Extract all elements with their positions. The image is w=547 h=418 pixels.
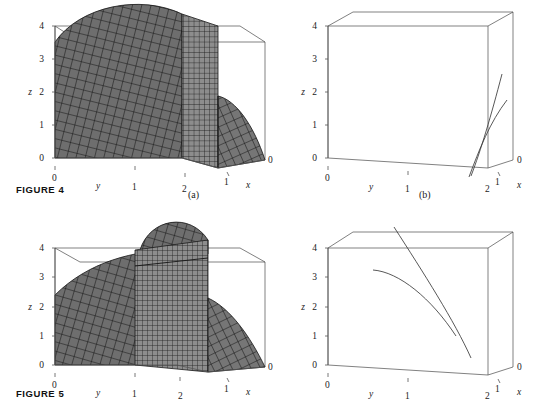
z-tick-0: 0 [312, 153, 317, 163]
y-tick-0: 0 [52, 173, 57, 183]
trace-curve-5b [373, 270, 456, 336]
y-tick-2: 2 [485, 184, 490, 194]
figure-4-block: FIGURE 4 (a) (b) [0, 0, 547, 210]
z-tick-2: 2 [312, 87, 317, 97]
y-tick-0: 0 [325, 380, 330, 390]
z-tick-0: 0 [39, 360, 44, 370]
z-tick-0: 0 [39, 153, 44, 163]
surface-mesh-right-5a [208, 298, 265, 372]
y-tick-2: 2 [182, 184, 187, 194]
x-axis-label: x [516, 180, 522, 190]
x-axis-label: x [516, 387, 522, 397]
y-axis-4a: 0 1 2 y [52, 166, 187, 194]
y-axis-label: y [368, 182, 374, 192]
z-tick-0: 0 [312, 360, 317, 370]
trace-curves-5b [373, 227, 471, 358]
figure-5-panel-a-plot: 0 1 2 3 4 z 0 1 2 y 1 0 x [22, 210, 292, 418]
figure-4-panel-a-plot: 0 1 2 3 4 z 0 1 2 y 1 0 [22, 0, 292, 210]
x-tick-0: 0 [268, 362, 273, 372]
z-tick-4: 4 [39, 21, 44, 31]
z-axis-5b: 0 1 2 3 4 z [300, 243, 328, 370]
y-tick-1: 1 [132, 389, 137, 399]
x-tick-0: 0 [268, 155, 273, 165]
y-tick-1: 1 [405, 391, 410, 401]
y-tick-0: 0 [52, 380, 57, 390]
z-tick-2: 2 [39, 87, 44, 97]
figure-5-block: FIGURE 5 [0, 210, 547, 418]
z-tick-1: 1 [312, 120, 317, 130]
z-tick-3: 3 [39, 54, 44, 64]
z-tick-4: 4 [39, 243, 44, 253]
x-tick-1: 1 [495, 177, 500, 187]
y-axis-label: y [95, 388, 101, 398]
z-tick-2: 2 [312, 302, 317, 312]
x-axis-5b: 1 0 x [495, 362, 522, 397]
tangent-line-5b [394, 227, 471, 358]
z-tick-3: 3 [39, 272, 44, 282]
y-axis-label: y [368, 389, 374, 399]
x-axis-label: x [245, 387, 251, 397]
z-axis-4a: 0 1 2 3 4 z [27, 21, 55, 163]
bounding-box-5b [328, 232, 513, 375]
x-tick-1: 1 [224, 384, 229, 394]
figure-5-panel-b-plot: 0 1 2 3 4 z 0 1 2 y 1 0 x [295, 210, 545, 418]
y-axis-label: y [95, 181, 101, 191]
bounding-box-4b [328, 12, 513, 168]
y-tick-0: 0 [325, 173, 330, 183]
y-axis-4b: 0 1 2 y [325, 166, 490, 194]
cutting-plane-wall-5a [135, 240, 208, 372]
x-tick-0: 0 [517, 155, 522, 165]
z-tick-3: 3 [312, 54, 317, 64]
z-tick-4: 4 [312, 243, 317, 253]
x-tick-1: 1 [224, 177, 229, 187]
z-tick-2: 2 [39, 302, 44, 312]
z-axis-5a: 0 1 2 3 4 z [27, 243, 55, 370]
x-axis-4b: 1 0 x [495, 155, 522, 190]
surface-mesh-dome-4a [55, 4, 182, 158]
z-axis-label: z [300, 302, 305, 312]
z-tick-1: 1 [39, 331, 44, 341]
y-tick-2: 2 [178, 391, 183, 401]
y-tick-2: 2 [485, 391, 490, 401]
figure-4-panel-b-plot: 0 1 2 3 4 z 0 1 2 y 1 0 x [295, 0, 545, 210]
z-axis-label: z [27, 302, 32, 312]
x-tick-1: 1 [495, 384, 500, 394]
x-tick-0: 0 [517, 362, 522, 372]
surface-mesh-right-4a [218, 96, 265, 168]
z-tick-4: 4 [312, 21, 317, 31]
x-axis-label: x [245, 180, 251, 190]
y-axis-5a: 0 1 2 y [52, 373, 183, 401]
z-tick-3: 3 [312, 272, 317, 282]
z-tick-1: 1 [312, 331, 317, 341]
y-tick-1: 1 [405, 184, 410, 194]
z-axis-label: z [27, 87, 32, 97]
z-axis-4b: 0 1 2 3 4 z [300, 21, 328, 163]
cutting-plane-wall-4a [182, 14, 218, 168]
z-axis-label: z [300, 87, 305, 97]
z-tick-1: 1 [39, 120, 44, 130]
y-axis-5b: 0 1 2 y [325, 373, 490, 401]
y-tick-1: 1 [132, 182, 137, 192]
